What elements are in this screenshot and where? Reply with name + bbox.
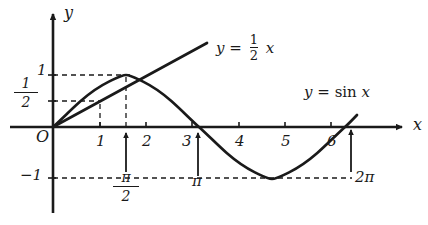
- sine-equation-function: sin: [335, 83, 357, 101]
- x-tick-label-3: 3: [182, 134, 192, 149]
- x-tick-label-6: 6: [327, 134, 337, 149]
- y-tick-label-one-half: 1 2: [14, 76, 38, 109]
- pi-over-two-denominator: 2: [113, 188, 139, 203]
- pi-over-two-fraction-bar: [113, 186, 139, 187]
- one-half-numerator: 1: [14, 76, 38, 91]
- sine-equation-variable: x: [362, 83, 370, 101]
- one-half-fraction-bar: [14, 92, 38, 93]
- graph-canvas: [0, 0, 428, 225]
- line-equation-equals: =: [229, 39, 242, 57]
- line-equation-y: y: [216, 39, 224, 57]
- x-tick-label-1: 1: [96, 134, 106, 149]
- line-equation-label: y = 1 2 x: [216, 33, 274, 62]
- line-equation-denominator: 2: [250, 49, 258, 62]
- sine-equation-y: y: [304, 83, 312, 101]
- pi-over-two-numerator: π: [113, 170, 139, 185]
- y-tick-label-one: 1: [37, 63, 47, 78]
- one-half-denominator: 2: [14, 94, 38, 109]
- x-tick-label-4: 4: [235, 134, 245, 149]
- y-axis-label: y: [64, 5, 73, 21]
- x-tick-label-2: 2: [142, 134, 152, 149]
- x-tick-label-5: 5: [281, 134, 291, 149]
- sine-and-line-graph-figure: y x O 1 1 2 −1 1 2 3 4 5 6 π 2 π 2π y = …: [0, 0, 428, 225]
- line-equation-numerator: 1: [250, 33, 258, 46]
- line-equation-variable: x: [266, 39, 274, 57]
- sine-equation-label: y = sin x: [304, 82, 370, 101]
- x-axis-label: x: [413, 117, 422, 133]
- origin-label: O: [36, 129, 49, 145]
- line-equation-fraction: 1 2: [250, 33, 258, 62]
- y-tick-label-minus-one: −1: [20, 168, 42, 183]
- sine-equation-equals: =: [317, 83, 330, 101]
- annotation-pi-over-two: π 2: [113, 170, 139, 203]
- annotation-pi: π: [192, 174, 202, 189]
- annotation-two-pi: 2π: [355, 170, 374, 185]
